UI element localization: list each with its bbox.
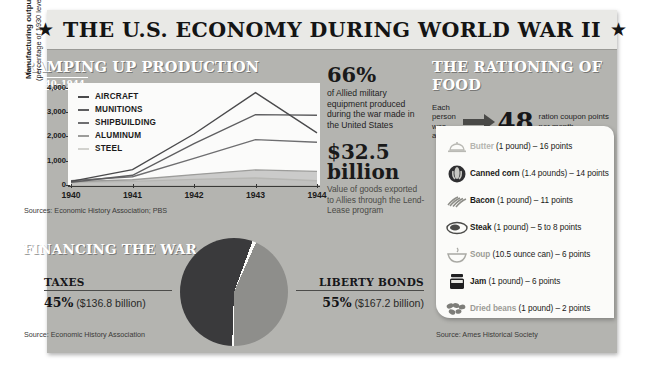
taxes-label: TAXES (44, 276, 172, 291)
production-y-ticks: 01,0002,0003,0004,000 (28, 83, 66, 185)
y-tick: 1,000 (32, 156, 66, 165)
butter-dish-icon (443, 140, 470, 154)
taxes-value: 45% ($136.8 billion) (44, 295, 172, 310)
production-y-axis-label: Manufacturing output (percentage of 1930… (24, 0, 42, 86)
ration-item-name: Dried beans (470, 304, 516, 313)
legend-swatch (78, 109, 89, 111)
ration-item-row: Steak (1 pound) – 5 to 8 points (443, 214, 608, 241)
financing-heading: FINANCING THE WAR (23, 241, 197, 257)
ration-item-detail: (1.4 pounds) – 14 points (522, 169, 609, 178)
legend-label: AIRCRAFT (95, 92, 138, 101)
rationing-heading: THE RATIONING OF FOOD (432, 58, 602, 93)
ration-item-text: Butter (1 pound) – 16 points (470, 142, 572, 151)
ration-item-name: Soup (470, 250, 490, 259)
dried-beans-icon (443, 302, 470, 316)
y-tick: 0 (32, 180, 66, 189)
legend-item: SHIPBUILDING (78, 116, 156, 129)
stats-panel: 66% of Allied military equipment produce… (327, 64, 425, 216)
stat-dollars-value: $32.5 billion (327, 142, 425, 182)
financing-bonds-block: LIBERTY BONDS 55% ($167.2 billion) (296, 276, 424, 310)
financing-pie-chart (180, 238, 288, 346)
y-axis-subtitle: (percentage of 1930 level) (34, 0, 44, 86)
legend-swatch (78, 135, 89, 137)
legend-swatch (78, 96, 89, 98)
legend-label: MUNITIONS (95, 105, 143, 114)
soup-bowl-icon (443, 247, 470, 263)
y-tick: 3,000 (32, 107, 66, 116)
canned-corn-icon (443, 165, 470, 183)
production-legend: AIRCRAFTMUNITIONSSHIPBUILDINGALUMINUMSTE… (78, 90, 156, 155)
ration-item-row: Soup (10.5 ounce can) – 6 points (443, 241, 608, 268)
ration-item-text: Jam (1 pound) – 6 points (470, 277, 560, 286)
legend-label: STEEL (95, 144, 122, 153)
bonds-percent: 55% (322, 295, 351, 310)
jam-jar-icon (443, 273, 470, 290)
ration-item-row: Dried beans (1 pound) – 2 points (443, 295, 608, 322)
star-right-icon: ★ (610, 20, 627, 39)
legend-item: MUNITIONS (78, 103, 156, 116)
legend-swatch (78, 148, 89, 150)
legend-item: STEEL (78, 142, 156, 155)
rationing-source: Source: Ames Historical Society (436, 330, 538, 339)
bonds-value: 55% ($167.2 billion) (296, 295, 424, 310)
ration-item-row: Canned corn (1.4 pounds) – 14 points (443, 160, 608, 187)
financing-taxes-block: TAXES 45% ($136.8 billion) (44, 276, 172, 310)
ration-item-row: Bacon (1 pound) – 11 points (443, 187, 608, 214)
ration-item-name: Butter (470, 142, 494, 151)
x-tick: 1940 (51, 190, 91, 200)
ration-item-row: Jam (1 pound) – 6 points (443, 268, 608, 295)
bonds-amount: ($167.2 billion) (355, 297, 425, 309)
stat-percent-value: 66% (327, 64, 425, 85)
taxes-amount: ($136.8 billion) (76, 297, 146, 309)
ration-item-name: Steak (470, 223, 492, 232)
ration-item-detail: (1 pound) – 2 points (519, 304, 591, 313)
ration-item-detail: (1 pound) – 6 points (488, 277, 560, 286)
stat-dollars-description: Value of goods exported to Allies throug… (327, 184, 425, 215)
ration-item-text: Soup (10.5 ounce can) – 6 points (470, 250, 590, 259)
bacon-icon (443, 194, 470, 208)
ration-item-text: Bacon (1 pound) – 11 points (470, 196, 573, 205)
ration-item-row: Butter (1 pound) – 16 points (443, 133, 608, 160)
legend-swatch (78, 122, 89, 124)
y-tick: 2,000 (32, 131, 66, 140)
bonds-label: LIBERTY BONDS (296, 276, 424, 291)
x-tick: 1943 (236, 190, 276, 200)
legend-item: ALUMINUM (78, 129, 156, 142)
financing-source: Source: Economic History Association (24, 330, 145, 339)
ration-item-name: Canned corn (470, 169, 520, 178)
poster-title-bar: ★ THE U.S. ECONOMY DURING WORLD WAR II ★ (47, 10, 617, 50)
ration-item-text: Canned corn (1.4 pounds) – 14 points (470, 169, 609, 178)
production-x-ticks: 19401941194219431944 (68, 187, 320, 201)
ration-item-text: Steak (1 pound) – 5 to 8 points (470, 223, 581, 232)
ration-item-detail: (1 pound) – 11 points (497, 196, 573, 205)
y-tick: 4,000 (32, 83, 66, 92)
y-axis-title: Manufacturing output (24, 0, 33, 79)
stat-percent-description: of Allied military equipment produced du… (327, 88, 425, 130)
ration-points-card: Butter (1 pound) – 16 pointsCanned corn … (436, 126, 614, 318)
ration-item-name: Jam (470, 277, 486, 286)
ration-item-name: Bacon (470, 196, 495, 205)
legend-label: SHIPBUILDING (95, 118, 156, 127)
x-tick: 1942 (174, 190, 214, 200)
x-tick: 1941 (113, 190, 153, 200)
page-title: THE U.S. ECONOMY DURING WORLD WAR II (63, 18, 601, 42)
steak-icon (443, 221, 470, 235)
ration-item-detail: (10.5 ounce can) – 6 points (493, 250, 591, 259)
legend-label: ALUMINUM (95, 131, 141, 140)
production-source: Sources: Economic History Association; P… (24, 206, 167, 215)
legend-item: AIRCRAFT (78, 90, 156, 103)
infographic-canvas: ★ THE U.S. ECONOMY DURING WORLD WAR II ★… (0, 0, 662, 379)
ration-item-detail: (1 pound) – 5 to 8 points (494, 223, 582, 232)
production-heading: RAMPING UP PRODUCTION (23, 58, 259, 75)
taxes-percent: 45% (44, 295, 73, 310)
ration-item-text: Dried beans (1 pound) – 2 points (470, 304, 590, 313)
ration-item-detail: (1 pound) – 16 points (496, 142, 572, 151)
